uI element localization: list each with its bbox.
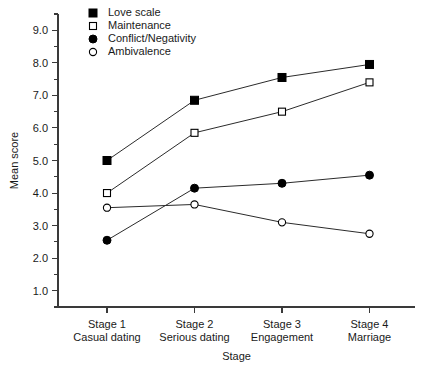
series-line [107,175,370,240]
series-line [107,82,370,193]
data-point-marker [278,73,286,81]
y-axis-tick-label: 9.0 [33,24,48,36]
legend-marker [89,9,97,17]
legend-label: Ambivalence [108,45,171,57]
legend-label: Love scale [108,6,161,18]
data-point-marker [278,179,286,187]
legend-marker [89,48,96,55]
series-line [107,204,370,233]
data-point-marker [103,204,110,211]
y-axis-tick-label: 3.0 [33,220,48,232]
y-axis-tick-label: 8.0 [33,57,48,69]
x-axis-category-label: Stage 2 [176,318,214,330]
data-point-marker [191,184,199,192]
data-point-marker [104,190,111,197]
legend-label: Conflict/Negativity [108,32,197,44]
x-axis-category-label: Stage 4 [351,318,389,330]
data-point-marker [103,236,111,244]
data-point-marker [366,79,373,86]
data-point-marker [278,219,285,226]
x-axis-category-label: Stage 1 [88,318,126,330]
y-axis-tick-label: 1.0 [33,285,48,297]
y-axis-tick-label: 2.0 [33,252,48,264]
data-point-marker [191,201,198,208]
data-point-marker [191,96,199,104]
x-axis-title: Stage [222,350,251,362]
x-axis-category-sublabel: Engagement [251,331,313,343]
x-axis-category-sublabel: Serious dating [159,331,229,343]
x-axis-category-sublabel: Casual dating [73,331,140,343]
y-axis-tick-label: 6.0 [33,122,48,134]
y-axis-tick-label: 7.0 [33,89,48,101]
legend-marker [90,23,97,30]
legend-marker [89,35,97,43]
data-point-marker [366,60,374,68]
chart-figure: 1.02.03.04.05.06.07.08.09.0Stage 1Casual… [0,0,424,365]
y-axis-tick-label: 5.0 [33,155,48,167]
y-axis-title: Mean score [8,132,20,189]
x-axis-category-sublabel: Marriage [348,331,391,343]
data-point-marker [366,230,373,237]
data-point-marker [103,157,111,165]
line-chart: 1.02.03.04.05.06.07.08.09.0Stage 1Casual… [0,0,424,365]
series-line [107,64,370,160]
y-axis-tick-label: 4.0 [33,187,48,199]
data-point-marker [366,171,374,179]
x-axis-category-label: Stage 3 [263,318,301,330]
legend-label: Maintenance [108,19,171,31]
data-point-marker [279,108,286,115]
data-point-marker [191,129,198,136]
